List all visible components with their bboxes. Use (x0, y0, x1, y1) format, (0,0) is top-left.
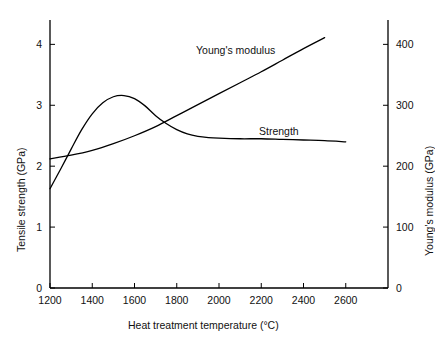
x-tick-label: 1400 (72, 295, 112, 306)
chart-curves (50, 38, 346, 189)
y-left-tick-label: 2 (28, 161, 42, 172)
y-right-tick-label: 300 (396, 100, 424, 111)
series-curve-strength (50, 95, 346, 188)
figure-tensile-strength-youngs-modulus: 12001400160018002000220024002600 01234 0… (0, 0, 435, 339)
x-tick-label: 1600 (115, 295, 155, 306)
series-label-strength: Strength (259, 125, 299, 137)
y-axis-right-title: Young's modulus (GPa) (424, 146, 435, 256)
y-right-tick-label: 100 (396, 222, 424, 233)
x-tick-label: 2000 (199, 295, 239, 306)
y-right-tick-label: 200 (396, 161, 424, 172)
y-left-tick-label: 4 (28, 39, 42, 50)
y-left-tick-label: 1 (28, 222, 42, 233)
x-tick-label: 2400 (284, 295, 324, 306)
x-tick-label: 1200 (30, 295, 70, 306)
x-axis-title: Heat treatment temperature (°C) (128, 320, 279, 331)
chart-axes (50, 20, 388, 288)
x-tick-label: 2600 (326, 295, 366, 306)
y-left-tick-label: 3 (28, 100, 42, 111)
y-axis-left-title: Tensile strength (GPa) (16, 148, 27, 252)
series-curve-young-s-modulus (50, 38, 325, 159)
y-left-tick-label: 0 (28, 283, 42, 294)
y-right-tick-label: 400 (396, 39, 424, 50)
x-tick-label: 2200 (241, 295, 281, 306)
series-label-youngs-modulus: Young's modulus (196, 44, 275, 56)
x-tick-label: 1800 (157, 295, 197, 306)
y-right-tick-label: 0 (396, 283, 424, 294)
